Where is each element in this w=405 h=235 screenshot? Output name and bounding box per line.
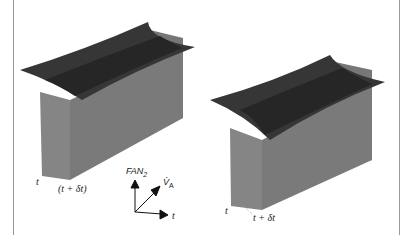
axis-vertical-label: FAN2	[126, 166, 147, 178]
diagram-canvas	[0, 0, 405, 235]
left-surface-block	[20, 22, 195, 180]
left-time-start-label: t	[36, 176, 39, 187]
axis-horizontal-label: t	[172, 210, 175, 221]
left-time-end-label: (t + δt)	[58, 183, 87, 194]
axis-diagonal-label: V̇A	[163, 177, 174, 189]
right-surface-block	[210, 55, 385, 215]
right-time-start-label: t	[225, 205, 228, 216]
right-time-end-label: t + δt	[253, 212, 275, 223]
